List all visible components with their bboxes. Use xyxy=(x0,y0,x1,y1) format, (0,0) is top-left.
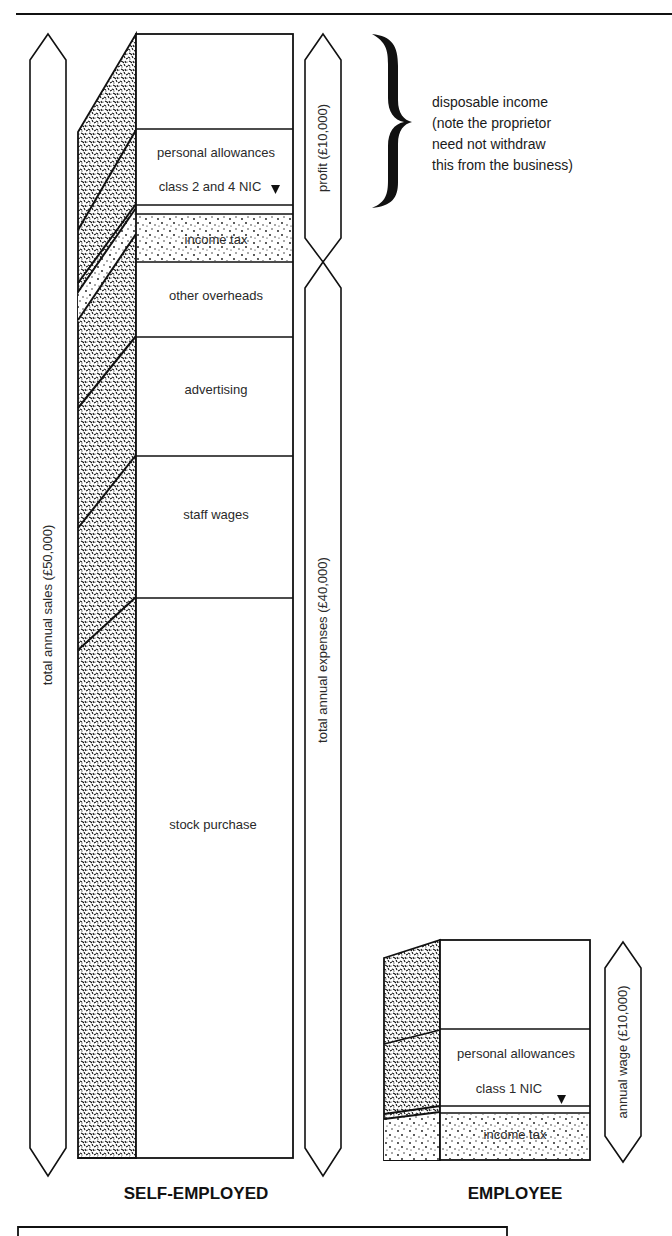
diagram-canvas: total annual sales (£50,000) personal al… xyxy=(0,0,672,1236)
employee-segment-income-tax: income tax xyxy=(484,1127,547,1142)
employee-title: EMPLOYEE xyxy=(468,1184,562,1203)
annotation-line: (note the proprietor xyxy=(432,115,551,131)
segment-personal-allowances: personal allowances xyxy=(157,145,275,160)
self-employed-column xyxy=(136,34,293,1158)
annotation-line: this from the business) xyxy=(432,157,573,173)
annual-wage-label: annual wage (£10,000) xyxy=(615,986,630,1119)
employee-income-tax-side xyxy=(384,1112,440,1160)
total-expenses-label: total annual expenses (£40,000) xyxy=(315,557,330,743)
annotation-line: disposable income xyxy=(432,94,548,110)
self-employed-side-shading xyxy=(78,34,136,1158)
disposable-income-brace xyxy=(372,34,412,208)
segment-stock-purchase: stock purchase xyxy=(169,817,256,832)
employee-segment-personal-allowances: personal allowances xyxy=(457,1046,575,1061)
total-sales-label: total annual sales (£50,000) xyxy=(40,525,55,685)
bottom-frame xyxy=(18,1227,507,1236)
annotation-line: need not withdraw xyxy=(432,136,547,152)
segment-nic: class 2 and 4 NIC xyxy=(159,179,262,194)
employee-segment-nic: class 1 NIC xyxy=(476,1081,542,1096)
self-employed-title: SELF-EMPLOYED xyxy=(124,1184,269,1203)
segment-advertising: advertising xyxy=(185,382,248,397)
segment-income-tax: income tax xyxy=(185,232,248,247)
profit-label: profit (£10,000) xyxy=(315,104,330,192)
segment-other-overheads: other overheads xyxy=(169,288,263,303)
segment-staff-wages: staff wages xyxy=(183,507,249,522)
